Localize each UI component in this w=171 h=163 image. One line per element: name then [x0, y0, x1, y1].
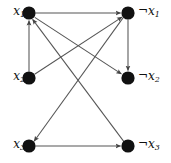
label-variable-nx3: x — [148, 137, 155, 151]
node-label-x2: x2 — [1, 70, 25, 84]
label-subscript-x2: 2 — [20, 75, 25, 84]
label-subscript-x3: 3 — [20, 143, 25, 152]
node-label-nx1: ¬x1 — [138, 5, 170, 19]
node-label-nx2: ¬x2 — [138, 70, 170, 84]
label-variable-x1: x — [13, 4, 20, 18]
negation-icon-nx1: ¬ — [138, 4, 148, 18]
negation-icon-nx2: ¬ — [138, 69, 148, 83]
implication-graph-figure: x1 ¬x1 x2 ¬x2 x3 ¬x3 — [0, 0, 171, 163]
label-subscript-nx2: 2 — [155, 75, 160, 84]
label-variable-x3: x — [13, 137, 20, 151]
label-subscript-nx1: 1 — [155, 10, 160, 19]
label-subscript-nx3: 3 — [155, 143, 160, 152]
label-variable-nx1: x — [148, 4, 155, 18]
edges-layer — [29, 13, 128, 146]
label-variable-nx2: x — [148, 69, 155, 83]
node-nx2[interactable] — [121, 71, 134, 84]
label-subscript-x1: 1 — [20, 10, 25, 19]
node-label-x1: x1 — [1, 5, 25, 19]
node-label-nx3: ¬x3 — [138, 138, 170, 152]
edge-nx3-to-x1 — [33, 19, 124, 141]
node-label-x3: x3 — [1, 138, 25, 152]
node-nx1[interactable] — [121, 6, 134, 19]
label-variable-x2: x — [13, 69, 20, 83]
negation-icon-nx3: ¬ — [138, 137, 148, 151]
node-nx3[interactable] — [121, 139, 134, 152]
